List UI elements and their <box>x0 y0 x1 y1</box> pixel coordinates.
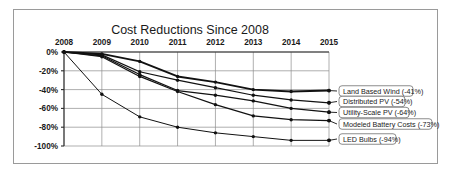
data-point-marker <box>289 98 292 101</box>
legend: Land Based Wind (-41%)Distributed PV (-5… <box>339 86 439 145</box>
data-point-marker <box>176 75 179 78</box>
legend-leader-lines <box>327 89 337 143</box>
x-tick-label: 2009 <box>93 38 112 47</box>
y-tick-label: 0% <box>46 48 59 57</box>
legend-label: Distributed PV (-54%) <box>343 97 413 106</box>
data-point-marker <box>289 90 292 93</box>
data-point-marker <box>252 135 255 138</box>
x-tick-label: 2015 <box>320 38 339 47</box>
data-point-marker <box>100 93 103 96</box>
data-point-marker <box>252 99 255 102</box>
data-series-group <box>62 50 330 142</box>
legend-item[interactable]: Modeled Battery Costs (-73%) <box>339 119 439 130</box>
series-line <box>64 52 329 112</box>
legend-item[interactable]: LED Bulbs (-94%) <box>339 134 401 145</box>
series-end-marker <box>327 89 331 93</box>
series-end-marker <box>327 101 331 105</box>
grid-lines <box>64 52 329 146</box>
legend-label: Utility-Scale PV (-64%) <box>343 108 416 117</box>
series-end-marker <box>327 138 331 142</box>
data-point-marker <box>214 131 217 134</box>
y-tick-label: -40% <box>39 86 59 95</box>
data-point-marker <box>252 114 255 117</box>
y-tick-label: -100% <box>34 142 58 151</box>
chart-title: Cost Reductions Since 2008 <box>111 23 269 37</box>
axis-lines <box>61 52 329 146</box>
x-axis-tick-labels: 20082009201020112012201320142015 <box>55 38 339 47</box>
series-end-marker <box>327 119 331 123</box>
data-point-marker <box>289 107 292 110</box>
legend-item[interactable]: Utility-Scale PV (-64%) <box>339 107 416 118</box>
data-point-marker <box>214 94 217 97</box>
legend-label: Modeled Battery Costs (-73%) <box>343 120 439 129</box>
legend-item[interactable]: Land Based Wind (-41%) <box>339 86 423 97</box>
x-tick-label: 2012 <box>206 38 225 47</box>
y-tick-label: -20% <box>39 67 59 76</box>
data-point-marker <box>176 79 179 82</box>
y-tick-label: -80% <box>39 123 59 132</box>
series-line <box>64 52 329 121</box>
x-tick-label: 2010 <box>131 38 150 47</box>
data-point-marker <box>214 80 217 83</box>
data-point-marker <box>214 86 217 89</box>
data-point-marker <box>138 115 141 118</box>
x-tick-label: 2013 <box>244 38 263 47</box>
data-point-marker <box>289 139 292 142</box>
data-point-marker <box>138 75 141 78</box>
data-point-marker <box>289 118 292 121</box>
data-point-marker <box>176 126 179 129</box>
y-tick-label: -60% <box>39 104 59 113</box>
cost-reductions-line-chart: Cost Reductions Since 2008 2008200920102… <box>0 0 459 181</box>
legend-item[interactable]: Distributed PV (-54%) <box>339 96 413 107</box>
data-point-marker <box>214 103 217 106</box>
series-end-marker <box>327 110 331 114</box>
data-point-marker <box>176 90 179 93</box>
chart-screenshot: Cost Reductions Since 2008 2008200920102… <box>0 0 459 181</box>
legend-label: LED Bulbs (-94%) <box>343 135 401 144</box>
x-tick-label: 2008 <box>55 38 74 47</box>
legend-label: Land Based Wind (-41%) <box>343 87 423 96</box>
x-tick-label: 2014 <box>282 38 301 47</box>
data-point-marker <box>138 60 141 63</box>
y-axis-tick-labels: 0%-20%-40%-60%-80%-100% <box>34 48 58 151</box>
data-point-marker <box>100 55 103 58</box>
data-point-marker <box>252 88 255 91</box>
x-tick-label: 2011 <box>169 38 187 47</box>
data-point-marker <box>62 50 65 53</box>
data-point-marker <box>252 94 255 97</box>
